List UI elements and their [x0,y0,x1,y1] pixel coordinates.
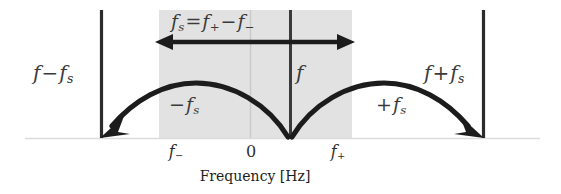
down-shift-label: −fs [168,95,199,116]
carrier-label: f [296,63,303,83]
tick-label-f-plus: f+ [331,144,346,161]
span-formula-label: fs=f+−f− [171,12,255,33]
diagram-canvas [0,0,561,194]
x-axis-title: Frequency [Hz] [200,168,311,184]
spectrum-shift-diagram: f−fs f f+fs fs=f+−f− −fs +fs f− 0 f+ Fre… [0,0,561,194]
upper-sideband-label: f+fs [424,63,464,85]
up-shift-label: +fs [375,95,406,116]
tick-label-zero: 0 [246,144,256,160]
lower-sideband-label: f−fs [33,63,73,85]
tick-label-f-minus: f− [169,144,184,161]
span-arrow [155,34,355,50]
